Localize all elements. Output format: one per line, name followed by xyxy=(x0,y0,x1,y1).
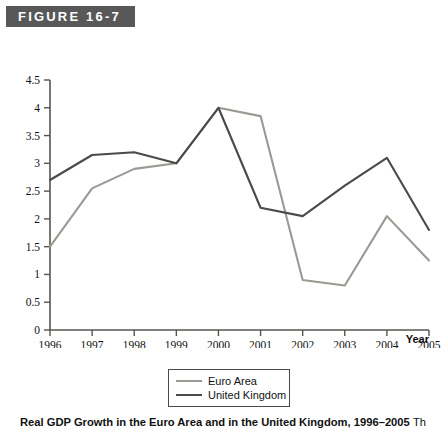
y-axis-tick-label: 0 xyxy=(34,324,40,336)
figure-caption: Real GDP Growth in the Euro Area and in … xyxy=(20,416,435,428)
caption-tail: Th xyxy=(413,416,426,428)
x-axis-tick-label: 2004 xyxy=(375,339,398,348)
x-axis-tick-label: 1998 xyxy=(123,339,146,348)
legend-item-euro-area: Euro Area xyxy=(176,374,281,388)
y-axis-tick-label: 2 xyxy=(34,213,40,225)
y-axis-tick-label: 4.5 xyxy=(26,74,41,86)
x-axis-title: Year xyxy=(406,333,430,345)
data-series-group xyxy=(50,108,429,286)
y-axis-tick-label: 3.5 xyxy=(26,130,41,142)
legend-label: Euro Area xyxy=(208,375,257,387)
y-axis-tick-label: 0.5 xyxy=(26,296,41,308)
x-axis: 1996199719981999200020012002200320042005 xyxy=(39,330,441,348)
line-chart-svg: 00.511.522.533.544.5 1996199719981999200… xyxy=(0,36,443,348)
legend-swatch-icon xyxy=(176,394,202,396)
x-axis-tick-label: 1996 xyxy=(39,339,62,348)
x-axis-tick-label: 2003 xyxy=(333,339,356,348)
legend-item-united-kingdom: United Kingdom xyxy=(176,388,281,402)
y-axis-tick-label: 2.5 xyxy=(26,185,41,197)
x-axis-tick-label: 2002 xyxy=(291,339,314,348)
y-axis-tick-label: 3 xyxy=(34,157,40,169)
chart-legend: Euro AreaUnited Kingdom xyxy=(168,369,290,407)
x-axis-tick-label: 2000 xyxy=(207,339,230,348)
y-axis-tick-label: 1.5 xyxy=(26,241,41,253)
x-axis-tick-label: 2001 xyxy=(249,339,272,348)
series-line-euro-area xyxy=(50,108,429,286)
legend-swatch-icon xyxy=(176,380,202,382)
figure-banner: FIGURE 16-7 xyxy=(6,6,135,27)
y-axis-tick-label: 4 xyxy=(34,102,40,114)
x-axis-tick-label: 1999 xyxy=(165,339,188,348)
series-line-united-kingdom xyxy=(50,108,429,230)
chart-plot-area: 00.511.522.533.544.5 1996199719981999200… xyxy=(0,36,443,348)
legend-label: United Kingdom xyxy=(208,389,286,401)
caption-main: Real GDP Growth in the Euro Area and in … xyxy=(20,416,410,428)
y-axis-tick-label: 1 xyxy=(34,268,40,280)
y-axis: 00.511.522.533.544.5 xyxy=(26,74,50,336)
x-axis-tick-label: 1997 xyxy=(81,339,104,348)
